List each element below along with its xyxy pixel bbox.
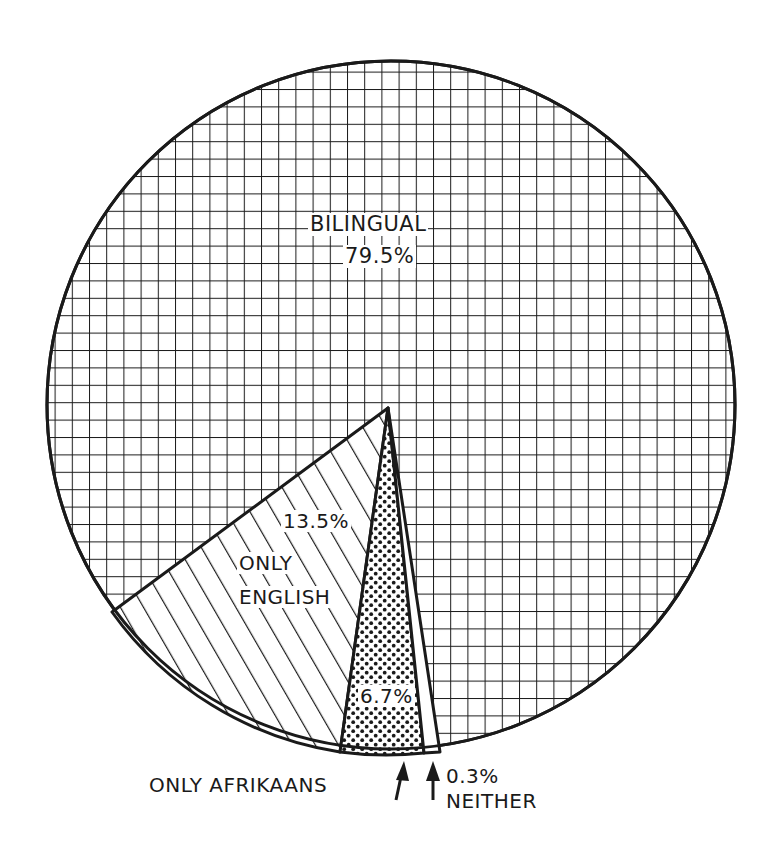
label-english-line1: ONLY xyxy=(237,552,294,574)
label-bilingual-pct: 79.5% xyxy=(343,245,416,268)
pie-chart xyxy=(0,0,773,858)
arrow-neither xyxy=(426,761,440,800)
label-bilingual-name: BILINGUAL xyxy=(308,213,428,236)
label-english-pct: 13.5% xyxy=(281,510,351,532)
label-afrikaans-name: ONLY AFRIKAANS xyxy=(149,775,327,795)
label-afrikaans-pct: 6.7% xyxy=(358,685,415,707)
label-neither-pct: 0.3% xyxy=(446,766,499,786)
arrow-only-afrikaans xyxy=(396,761,409,800)
label-english-line2: ENGLISH xyxy=(237,586,332,608)
label-neither-name: NEITHER xyxy=(446,791,537,811)
